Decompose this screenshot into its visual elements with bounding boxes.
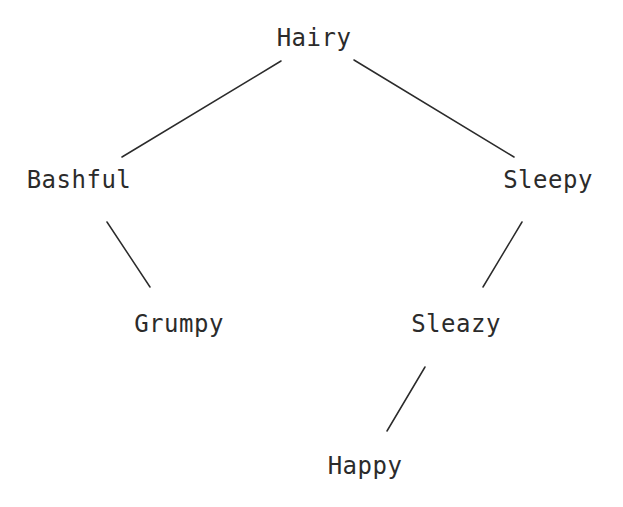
edge-sleazy-to-happy (387, 367, 425, 431)
node-happy[interactable]: Happy (328, 454, 403, 478)
node-hairy[interactable]: Hairy (277, 26, 352, 50)
node-sleepy[interactable]: Sleepy (503, 168, 593, 192)
edge-sleepy-to-sleazy (483, 222, 522, 287)
edge-hairy-to-bashful (122, 61, 281, 157)
edge-bashful-to-grumpy (107, 222, 150, 287)
diagram-canvas: HairyBashfulSleepyGrumpySleazyHappy (0, 0, 623, 507)
edge-layer (0, 0, 623, 507)
node-bashful[interactable]: Bashful (27, 168, 132, 192)
node-grumpy[interactable]: Grumpy (134, 312, 224, 336)
node-sleazy[interactable]: Sleazy (411, 312, 501, 336)
edge-hairy-to-sleepy (354, 60, 514, 157)
